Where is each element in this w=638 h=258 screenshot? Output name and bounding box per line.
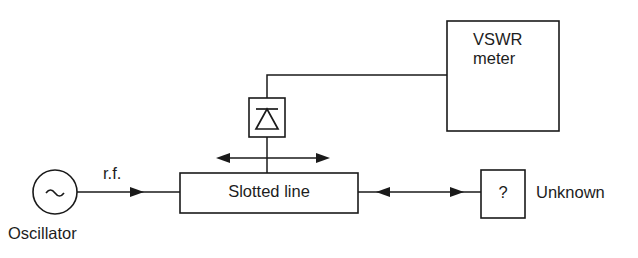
rf-signal-label: r.f. (103, 164, 121, 183)
unknown-text-label: Unknown (536, 183, 605, 202)
vswr-meter-label: VSWR meter (473, 30, 523, 69)
diagram-canvas (0, 0, 638, 258)
oscillator-label: Oscillator (8, 224, 77, 243)
probe-travel-arrow (216, 153, 330, 163)
wire-detector-to-vswr-meter (267, 75, 447, 98)
vswr-meter-label-line2: meter (473, 49, 523, 68)
vswr-measurement-diagram: VSWR meter Slotted line ? Unknown Oscill… (0, 0, 638, 258)
unknown-load-label: ? (481, 183, 525, 202)
slotted-line-label: Slotted line (199, 182, 339, 201)
wire-slotted-line-to-unknown (358, 187, 481, 197)
vswr-meter-label-line1: VSWR (473, 30, 523, 49)
wire-oscillator-to-slotted-line (77, 187, 180, 197)
detector-box[interactable] (249, 98, 285, 137)
